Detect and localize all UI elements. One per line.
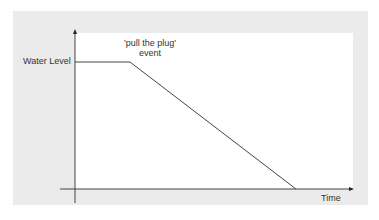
y-axis-label: Water Level bbox=[23, 56, 71, 66]
water-level-line bbox=[75, 62, 296, 189]
annotation-line-1: 'pull the plug' bbox=[120, 38, 180, 48]
y-axis-arrow-icon bbox=[73, 29, 77, 34]
pull-plug-annotation: 'pull the plug' event bbox=[120, 38, 180, 58]
water-level-diagram bbox=[0, 0, 379, 220]
x-axis-label: Time bbox=[321, 193, 341, 203]
x-axis-arrow-icon bbox=[349, 187, 354, 191]
annotation-line-2: event bbox=[120, 48, 180, 58]
